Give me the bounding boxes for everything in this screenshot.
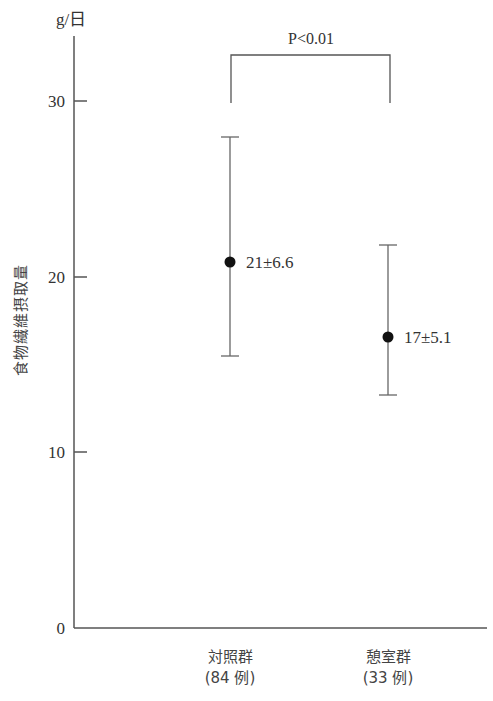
y-tick-label-20: 20 [48, 268, 65, 287]
category-label-control: 対照群 [208, 648, 253, 666]
y-tick-label-10: 10 [48, 443, 65, 462]
data-point-control-group: 21±6.6 [221, 137, 294, 356]
data-label: 17±5.1 [404, 328, 452, 347]
mean-marker [225, 257, 236, 268]
data-point-diverticulum-group: 17±5.1 [379, 245, 452, 395]
significance-bracket: P<0.01 [231, 30, 390, 103]
x-category-labels: 対照群 (84 例) 憩室群 (33 例) [205, 648, 414, 687]
chart: g/日 30 20 10 0 食物繊維摂取量 P<0.01 21±6.6 17±… [0, 0, 493, 701]
y-ticks: 30 20 10 0 [48, 92, 87, 638]
mean-marker [383, 332, 394, 343]
y-tick-label-0: 0 [57, 619, 66, 638]
y-tick-label-30: 30 [48, 92, 65, 111]
p-value-label: P<0.01 [288, 30, 334, 47]
data-label: 21±6.6 [246, 253, 294, 272]
y-axis-title: 食物繊維摂取量 [12, 264, 30, 376]
y-unit-label: g/日 [56, 10, 86, 29]
category-label-diverticulum: 憩室群 [366, 648, 411, 666]
category-n-control: (84 例) [205, 669, 256, 687]
bracket-line [231, 55, 390, 103]
category-n-diverticulum: (33 例) [363, 669, 414, 687]
